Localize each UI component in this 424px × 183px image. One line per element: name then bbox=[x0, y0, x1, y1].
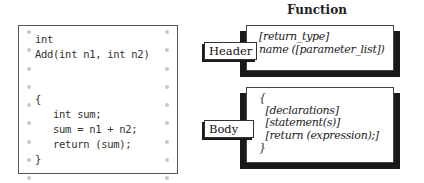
perforation-dots-left bbox=[27, 30, 31, 183]
code-listing: int Add(int n1, int n2) { int sum; sum =… bbox=[35, 32, 149, 167]
header-label: Header bbox=[204, 42, 257, 60]
perforation-dots-right bbox=[165, 30, 169, 183]
body-label: Body bbox=[204, 120, 254, 138]
diagram-title: Function bbox=[287, 3, 347, 17]
code-example-panel: int Add(int n1, int n2) { int sum; sum =… bbox=[18, 25, 178, 174]
body-syntax: { [declarations] [statement(s)] [return … bbox=[259, 92, 379, 155]
header-box: [return_type] name ([parameter_list]) bbox=[246, 25, 394, 71]
body-box: { [declarations] [statement(s)] [return … bbox=[246, 87, 394, 163]
header-syntax: [return_type] name ([parameter_list]) bbox=[259, 31, 385, 56]
